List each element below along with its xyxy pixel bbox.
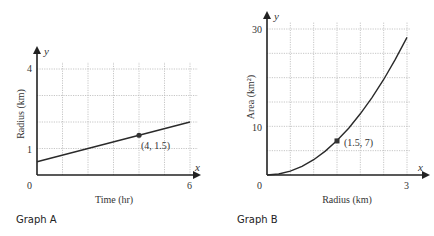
graph-a-point-label: (4, 1.5) (141, 140, 170, 152)
graph-b-y-symbol: y (273, 10, 279, 22)
graph-b-x-symbol: x (417, 161, 423, 173)
graph-b-grid (267, 22, 410, 175)
graph-b-y-tick-10: 10 (252, 122, 262, 133)
graph-a-y-tick-4: 4 (27, 63, 32, 74)
graph-a-point-marker (136, 133, 141, 138)
graph-a-x-symbol: x (194, 161, 200, 173)
graph-a-y-axis-label: Radius (km) (15, 89, 27, 139)
graph-b-x-axis-label: Radius (km) (322, 194, 372, 206)
graph-b-y-tick-30: 30 (252, 24, 262, 35)
graph-b-origin-label: 0 (257, 180, 262, 191)
graph-a: y x 4 1 0 6 (4, 1.5) Time (hr) Radius (k… (15, 45, 200, 225)
graph-a-y-symbol: y (43, 45, 49, 57)
graph-a-y-tick-1: 1 (27, 144, 32, 155)
graph-b-caption: Graph B (237, 214, 278, 225)
graph-a-x-tick-6: 6 (187, 180, 192, 191)
graph-b-x-tick-3: 3 (404, 180, 409, 191)
graph-b: y x 30 10 0 3 (1.5, 7) Radius (km) Area … (237, 10, 428, 225)
graph-a-x-axis-label: Time (hr) (95, 194, 133, 206)
figure: y x 4 1 0 6 (4, 1.5) Time (hr) Radius (k… (0, 0, 434, 236)
graph-b-y-axis-label: Area (km²) (245, 75, 257, 119)
graph-a-grid (37, 62, 198, 175)
graph-a-caption: Graph A (16, 214, 57, 225)
graph-b-curve (267, 37, 407, 175)
graph-b-point-marker (335, 138, 340, 143)
graph-b-point-label: (1.5, 7) (344, 137, 373, 149)
graph-a-origin-label: 0 (27, 180, 32, 191)
